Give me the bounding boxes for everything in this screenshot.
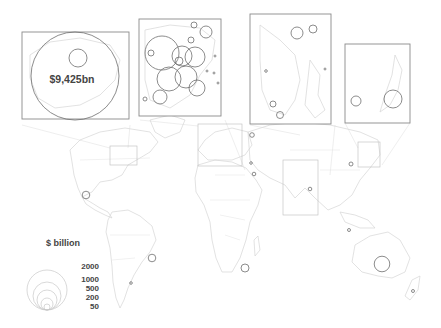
inset-japan [345,44,410,123]
central-america-outline [82,197,112,218]
legend-value-200: 200 [86,293,99,302]
bubble-turkey [250,162,253,165]
europe-outline [198,128,252,160]
bubble-australia [374,256,390,272]
bubble-chile [130,282,133,285]
legend-value-2000: 2000 [81,262,99,271]
north-america-outline [70,128,158,197]
africa-outline [195,160,262,272]
inset-leader-lines [22,120,410,175]
landmasses [70,115,420,308]
greenland-outline [150,115,185,138]
legend-value-1000: 1000 [81,275,99,284]
bubble-israel [252,172,256,176]
bubbles-main-map [82,133,414,293]
legend-value-500: 500 [86,284,99,293]
bubble-new-zealand [412,290,415,293]
asia-outline [248,122,380,210]
madagascar-outline [254,236,260,256]
australia-outline [352,232,410,278]
bubble-india [308,187,312,191]
bubble-korea [349,162,353,166]
legend-circles [27,270,67,310]
bubble-south-africa [241,264,249,272]
southeast-asia-islands-outline [340,212,375,228]
bubble-brazil [148,254,156,262]
world-map [0,0,441,328]
inset-east-asia [250,14,331,124]
legend-title: $ billion [46,238,80,248]
new-zealand-outline [405,276,420,300]
usa-value-label: $9,425bn [39,73,105,85]
bubble-indonesia [348,229,351,232]
legend-value-50: 50 [90,302,99,311]
bubble-russia [250,133,255,138]
